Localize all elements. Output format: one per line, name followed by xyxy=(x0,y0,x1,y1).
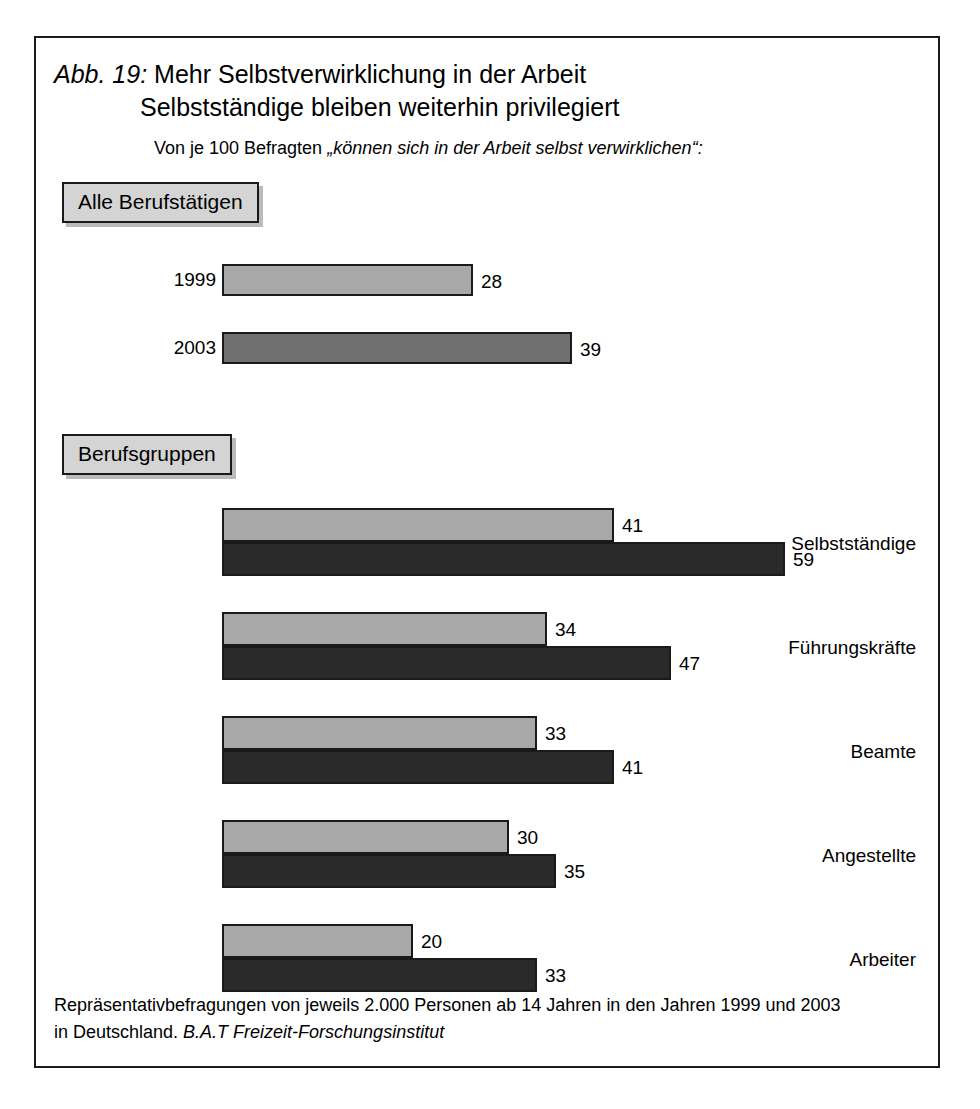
bar-value-label: 59 xyxy=(793,550,814,569)
bar-value-label: 33 xyxy=(545,724,566,743)
bar-2003 xyxy=(222,646,671,680)
bar-value-label: 30 xyxy=(517,828,538,847)
bar-row-label: Beamte xyxy=(746,742,916,761)
bar-1999 xyxy=(222,820,509,854)
bar-2003 xyxy=(222,542,785,576)
bar-value-label: 35 xyxy=(564,862,585,881)
chart-area-occupational-groups: Selbstständige 41 59 Führungskräfte 34 4… xyxy=(36,38,938,1066)
bar-1999 xyxy=(222,924,413,958)
bar-value-label: 20 xyxy=(421,932,442,951)
bar-value-label: 41 xyxy=(622,758,643,777)
footnote-line-2-prefix: in Deutschland. xyxy=(54,1022,183,1042)
bar-row-label: Angestellte xyxy=(746,846,916,865)
bar-value-label: 34 xyxy=(555,620,576,639)
footnote-source: B.A.T Freizeit-Forschungsinstitut xyxy=(183,1022,444,1042)
bar-1999 xyxy=(222,716,537,750)
bar-2003 xyxy=(222,854,556,888)
bar-value-label: 33 xyxy=(545,966,566,985)
bar-row-label: Arbeiter xyxy=(746,950,916,969)
footnote-line-1: Repräsentativbefragungen von jeweils 2.0… xyxy=(54,992,924,1019)
figure-frame: Abb. 19: Mehr Selbstverwirklichung in de… xyxy=(34,36,940,1068)
bar-1999 xyxy=(222,612,547,646)
bar-row-label: Führungskräfte xyxy=(746,638,916,657)
bar-value-label: 41 xyxy=(622,516,643,535)
figure-footnote: Repräsentativbefragungen von jeweils 2.0… xyxy=(54,992,924,1046)
bar-2003 xyxy=(222,750,614,784)
bar-2003 xyxy=(222,958,537,992)
bar-1999 xyxy=(222,508,614,542)
bar-value-label: 47 xyxy=(679,654,700,673)
footnote-line-2: in Deutschland. B.A.T Freizeit-Forschung… xyxy=(54,1019,924,1046)
